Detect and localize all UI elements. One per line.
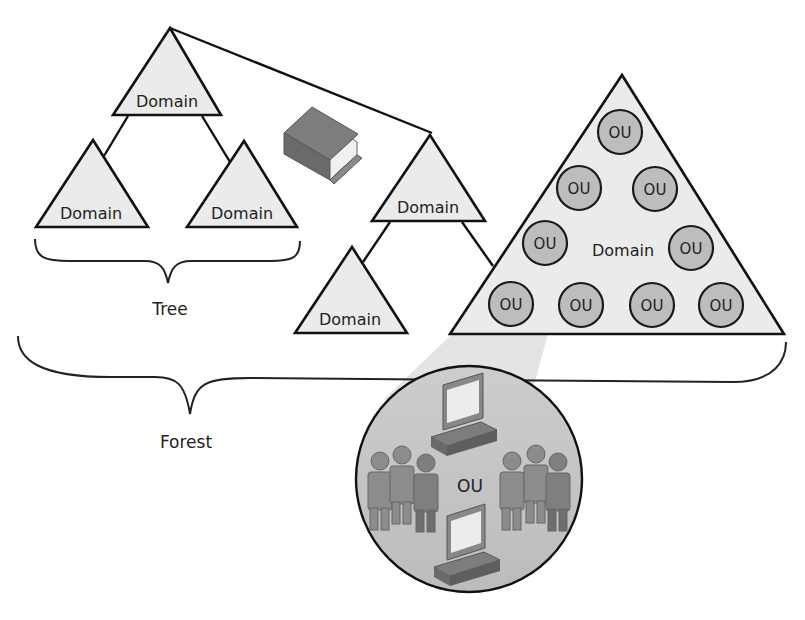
- domain-label: Domain: [60, 204, 122, 223]
- ou-detail-label: OU: [457, 476, 483, 496]
- ou-node[interactable]: OU: [557, 166, 601, 210]
- ou-node[interactable]: OU: [489, 282, 533, 326]
- svg-text:OU: OU: [680, 240, 703, 258]
- domain-label: Domain: [211, 204, 273, 223]
- ou-node[interactable]: OU: [633, 167, 677, 211]
- svg-text:OU: OU: [568, 180, 591, 198]
- domain-label: Domain: [319, 310, 381, 329]
- domain-label: Domain: [397, 198, 459, 217]
- svg-text:OU: OU: [710, 297, 733, 315]
- tree-brace: [35, 239, 300, 283]
- forest-label: Forest: [160, 432, 213, 452]
- ou-node[interactable]: OU: [669, 226, 713, 270]
- ou-detail[interactable]: OU: [356, 366, 582, 592]
- ou-node[interactable]: OU: [630, 283, 674, 327]
- svg-text:OU: OU: [534, 235, 557, 253]
- ou-node[interactable]: OU: [598, 110, 642, 154]
- svg-text:OU: OU: [500, 296, 523, 314]
- users-group-icon: [368, 446, 438, 532]
- ad-forest-diagram: Domain Domain Domain Tree Domain Domain …: [0, 0, 805, 620]
- domain-label: Domain: [136, 92, 198, 111]
- ou-node[interactable]: OU: [559, 283, 603, 327]
- second-tree-child-domain[interactable]: Domain: [295, 247, 407, 333]
- ou-node[interactable]: OU: [699, 283, 743, 327]
- second-tree-root-domain[interactable]: Domain: [372, 135, 485, 221]
- svg-text:OU: OU: [609, 124, 632, 142]
- svg-text:OU: OU: [644, 181, 667, 199]
- tree-child-domain-right[interactable]: Domain: [187, 141, 297, 227]
- svg-text:OU: OU: [641, 297, 664, 315]
- domain-label: Domain: [592, 241, 654, 260]
- tree-child-domain-left[interactable]: Domain: [36, 140, 148, 227]
- ou-node[interactable]: OU: [523, 221, 567, 265]
- svg-text:OU: OU: [570, 297, 593, 315]
- tree-label: Tree: [151, 299, 187, 319]
- large-domain[interactable]: Domain OU OU OU OU OU OU OU: [450, 75, 784, 334]
- book-icon: [284, 107, 362, 184]
